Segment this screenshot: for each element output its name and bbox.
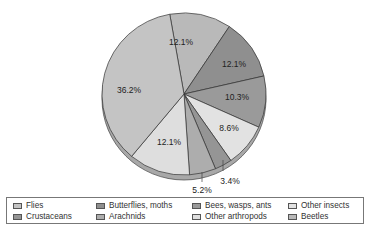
pie-label: 10.3% [225,92,250,102]
pie-label: 12.1% [157,137,182,147]
legend-item-butterflies: Butterflies, moths [96,201,172,210]
pie-label: 36.2% [117,85,142,95]
legend-swatch [96,214,105,220]
legend-label: Bees, wasps, ants [205,201,271,210]
legend-label: Arachnids [109,212,145,221]
pie-label: 12.1% [169,37,194,47]
legend: Flies Butterflies, moths Bees, wasps, an… [6,197,364,224]
legend-swatch [192,203,201,209]
legend-item-crustaceans: Crustaceans [13,212,72,221]
pie-label: 5.2% [192,185,212,195]
legend-swatch [13,214,22,220]
legend-label: Butterflies, moths [109,201,172,210]
legend-item-flies: Flies [13,201,43,210]
pie-chart: 12.1%12.1%10.3%8.6%3.4%5.2%12.1%36.2% [0,0,374,195]
legend-label: Crustaceans [26,212,72,221]
legend-label: Other arthropods [205,212,267,221]
legend-swatch [288,214,297,220]
legend-item-bees: Bees, wasps, ants [192,201,271,210]
legend-swatch [13,203,22,209]
pie-label: 3.4% [220,176,240,186]
legend-item-arachnids: Arachnids [96,212,145,221]
legend-label: Beetles [301,212,328,221]
pie-label: 12.1% [222,59,247,69]
legend-swatch [288,203,297,209]
legend-item-beetles: Beetles [288,212,328,221]
legend-label: Flies [26,201,43,210]
pie-label: 8.6% [219,123,239,133]
legend-item-other-arthropods: Other arthropods [192,212,267,221]
legend-item-other-insects: Other insects [288,201,349,210]
legend-swatch [96,203,105,209]
legend-swatch [192,214,201,220]
legend-label: Other insects [301,201,349,210]
